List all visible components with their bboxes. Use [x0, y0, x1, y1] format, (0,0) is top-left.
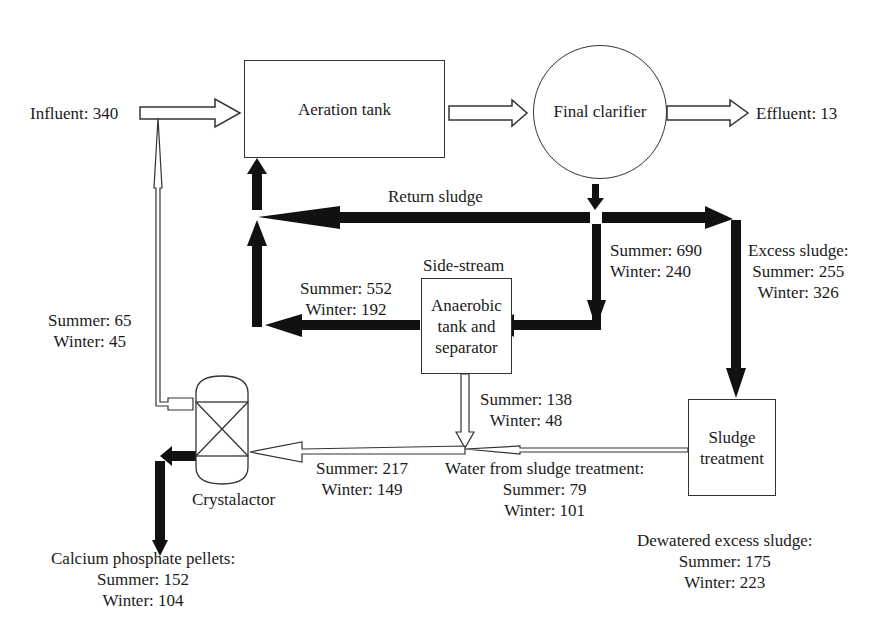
water-from-sludge-treatment-arrow	[465, 446, 688, 454]
calcium-phosphate-values: Calcium phosphate pellets: Summer: 152 W…	[51, 548, 235, 611]
anaerobic-tank-line-2: tank and	[437, 316, 495, 337]
summer-value: Summer: 690	[610, 240, 702, 261]
return-sludge-line	[340, 212, 590, 223]
return-sludge-label: Return sludge	[388, 186, 483, 207]
crystalactor-return-arrow	[154, 118, 193, 410]
influent-label: Influent: 340	[30, 103, 118, 124]
winter-value: Winter: 101	[445, 500, 644, 521]
winter-value: Winter: 223	[637, 572, 813, 593]
supernatant-down-arrow	[456, 374, 474, 448]
excess-sludge-title: Excess sludge:	[748, 240, 849, 261]
anaerobic-tank-separator: Anaerobic tank and separator	[421, 278, 512, 374]
summer-value: Summer: 217	[316, 458, 408, 479]
sludge-treatment-line-1: Sludge	[708, 427, 755, 448]
winter-value: Winter: 48	[480, 410, 572, 431]
sludge-treatment-line-2: treatment	[700, 448, 764, 469]
crystalactor-return-values: Summer: 65 Winter: 45	[48, 310, 132, 352]
sidestream-return-values: Summer: 552 Winter: 192	[300, 278, 392, 320]
winter-value: Winter: 104	[51, 590, 235, 611]
final-clarifier: Final clarifier	[533, 45, 667, 179]
winter-value: Winter: 45	[48, 331, 132, 352]
summer-value: Summer: 65	[48, 310, 132, 331]
return-sludge-arrowhead	[258, 206, 340, 229]
summer-value: Summer: 552	[300, 278, 392, 299]
supernatant-values: Summer: 138 Winter: 48	[480, 389, 572, 431]
summer-value: Summer: 138	[480, 389, 572, 410]
winter-value: Winter: 326	[748, 282, 849, 303]
to-crystalactor-values: Summer: 217 Winter: 149	[316, 458, 408, 500]
side-stream-label: Side-stream	[423, 255, 504, 276]
summer-value: Summer: 175	[637, 551, 813, 572]
dewatered-title: Dewatered excess sludge:	[637, 530, 813, 551]
winter-value: Winter: 149	[316, 479, 408, 500]
crystalactor-label: Crystalactor	[192, 489, 275, 510]
dewatered-sludge-values: Dewatered excess sludge: Summer: 175 Win…	[637, 530, 813, 593]
excess-sludge-arrowhead	[726, 368, 746, 398]
winter-value: Winter: 240	[610, 261, 702, 282]
clarifier-to-sidestream-values: Summer: 690 Winter: 240	[610, 240, 702, 282]
effluent-arrow	[667, 100, 748, 126]
summer-value: Summer: 152	[51, 569, 235, 590]
crystalactor-vessel	[196, 376, 248, 484]
return-to-aeration-arrowhead	[247, 158, 267, 174]
summer-value: Summer: 79	[445, 479, 644, 500]
water-from-sludge-treatment-values: Water from sludge treatment: Summer: 79 …	[445, 458, 644, 521]
excess-sludge-values: Excess sludge: Summer: 255 Winter: 326	[748, 240, 849, 303]
influent-arrow	[140, 99, 240, 127]
sludge-treatment: Sludge treatment	[688, 399, 776, 496]
final-clarifier-label: Final clarifier	[554, 102, 647, 122]
effluent-label: Effluent: 13	[756, 103, 837, 124]
pellets-title: Calcium phosphate pellets:	[51, 548, 235, 569]
aeration-tank: Aeration tank	[244, 60, 445, 158]
aeration-tank-label: Aeration tank	[298, 99, 391, 120]
anaerobic-tank-line-1: Anaerobic	[431, 295, 502, 316]
anaerobic-tank-line-3: separator	[435, 337, 497, 358]
summer-value: Summer: 255	[748, 261, 849, 282]
water-title: Water from sludge treatment:	[445, 458, 644, 479]
winter-value: Winter: 192	[300, 299, 392, 320]
aeration-to-clarifier-arrow	[449, 100, 527, 126]
